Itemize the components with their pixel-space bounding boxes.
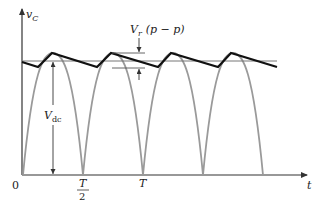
tick-half-numerator: T (79, 177, 88, 190)
ripple-subscript: r (138, 29, 143, 38)
svg-text:Vdc: Vdc (44, 109, 62, 124)
origin-label: 0 (12, 179, 19, 192)
svg-text:vC: vC (26, 8, 38, 23)
tick-half-period: T 2 (77, 177, 89, 202)
svg-text:Vr(p − p): Vr(p − p) (130, 23, 185, 38)
ripple-voltage-diagram: Vr(p − p) Vdc vC t 0 T 2 T (0, 0, 321, 211)
tick-period: T (139, 177, 148, 190)
y-axis-subscript: C (32, 14, 38, 23)
rectified-sine-wave (23, 53, 263, 175)
ripple-annotation: Vr(p − p) (112, 23, 185, 80)
x-axis-label: t (307, 179, 312, 192)
ripple-suffix: (p − p) (146, 23, 185, 36)
vdc-annotation: Vdc (44, 62, 62, 174)
tick-half-denominator: 2 (79, 191, 85, 202)
ripple-waveform (22, 53, 277, 67)
vdc-subscript: dc (52, 115, 62, 124)
